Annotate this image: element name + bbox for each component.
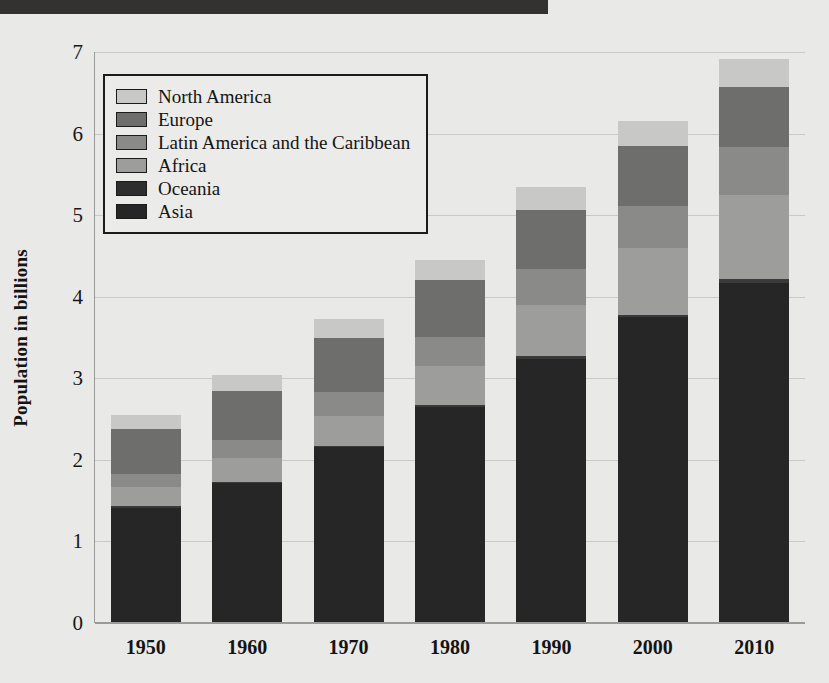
bar-group[interactable]: 2010 xyxy=(719,52,789,622)
bar-segment[interactable] xyxy=(111,415,181,429)
bar-segment[interactable] xyxy=(618,248,688,314)
x-tick-label: 1990 xyxy=(531,636,571,659)
bar-group[interactable]: 2000 xyxy=(618,52,688,622)
bar-segment[interactable] xyxy=(212,458,282,482)
legend-swatch-icon xyxy=(116,89,147,104)
legend-item[interactable]: Oceania xyxy=(116,177,410,200)
bar-segment[interactable] xyxy=(314,416,384,446)
y-tick-label: 0 xyxy=(73,611,84,636)
legend-item[interactable]: Europe xyxy=(116,108,410,131)
y-tick-label: 1 xyxy=(73,529,84,554)
bar-segment[interactable] xyxy=(618,206,688,248)
y-tick-label: 5 xyxy=(73,203,84,228)
y-tick-label: 3 xyxy=(73,366,84,391)
legend-item[interactable]: Africa xyxy=(116,154,410,177)
bar-segment[interactable] xyxy=(212,483,282,622)
bar-group[interactable]: 1990 xyxy=(516,52,586,622)
bar-segment[interactable] xyxy=(111,474,181,488)
x-tick-label: 1970 xyxy=(329,636,369,659)
bar-segment[interactable] xyxy=(212,440,282,458)
legend-item[interactable]: North America xyxy=(116,85,410,108)
bar-segment[interactable] xyxy=(415,407,485,622)
legend-item-label: Asia xyxy=(158,201,193,223)
legend-item-label: North America xyxy=(158,86,271,108)
bar-segment[interactable] xyxy=(516,305,586,356)
y-tick-label: 6 xyxy=(73,121,84,146)
bar-segment[interactable] xyxy=(719,195,789,279)
bar-segment[interactable] xyxy=(212,391,282,440)
bar-segment[interactable] xyxy=(719,283,789,622)
x-tick-label: 1980 xyxy=(430,636,470,659)
legend-swatch-icon xyxy=(116,158,147,173)
legend-item-label: Oceania xyxy=(158,178,220,200)
top-redaction-band xyxy=(0,0,548,14)
legend-swatch-icon xyxy=(116,112,147,127)
bar-segment[interactable] xyxy=(618,317,688,622)
legend-item-label: Latin America and the Caribbean xyxy=(158,132,410,154)
bar-segment[interactable] xyxy=(314,447,384,622)
bar-segment[interactable] xyxy=(618,121,688,146)
x-tick-label: 2010 xyxy=(734,636,774,659)
x-tick-label: 2000 xyxy=(633,636,673,659)
bar-segment[interactable] xyxy=(516,187,586,210)
legend-swatch-icon xyxy=(116,181,147,196)
gridline xyxy=(95,623,805,624)
bar-segment[interactable] xyxy=(314,319,384,338)
bar-segment[interactable] xyxy=(314,338,384,392)
bar-segment[interactable] xyxy=(516,210,586,269)
legend-item-label: Europe xyxy=(158,109,213,131)
bar-segment[interactable] xyxy=(415,366,485,405)
y-tick-label: 2 xyxy=(73,447,84,472)
bar-segment[interactable] xyxy=(719,59,789,87)
bar-segment[interactable] xyxy=(516,359,586,622)
y-tick-label: 4 xyxy=(73,284,84,309)
bar-segment[interactable] xyxy=(212,375,282,391)
bar-segment[interactable] xyxy=(111,429,181,474)
bar-segment[interactable] xyxy=(719,147,789,195)
bar-segment[interactable] xyxy=(415,337,485,366)
bar-segment[interactable] xyxy=(111,487,181,506)
y-axis-title: Population in billions xyxy=(8,52,34,623)
x-tick-label: 1960 xyxy=(227,636,267,659)
legend-item[interactable]: Asia xyxy=(116,200,410,223)
bar-segment[interactable] xyxy=(314,392,384,416)
bar-segment[interactable] xyxy=(111,508,181,622)
bar-segment[interactable] xyxy=(719,87,789,147)
legend-swatch-icon xyxy=(116,204,147,219)
stacked-bar-chart: Population in billions 76543210 19501960… xyxy=(0,14,829,683)
legend-swatch-icon xyxy=(116,135,147,150)
legend-item-label: Africa xyxy=(158,155,207,177)
legend-item[interactable]: Latin America and the Caribbean xyxy=(116,131,410,154)
chart-legend: North AmericaEuropeLatin America and the… xyxy=(103,74,428,234)
bar-segment[interactable] xyxy=(415,260,485,280)
bar-segment[interactable] xyxy=(415,280,485,336)
bar-segment[interactable] xyxy=(618,146,688,206)
bar-segment[interactable] xyxy=(516,269,586,305)
y-tick-label: 7 xyxy=(73,40,84,65)
x-tick-label: 1950 xyxy=(126,636,166,659)
